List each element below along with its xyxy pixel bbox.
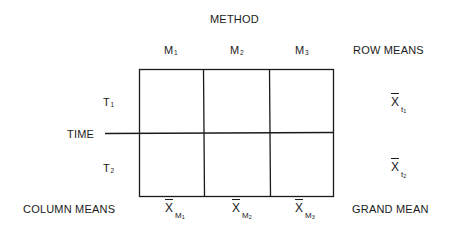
column-mean-m1-subscript-letter: M — [175, 211, 182, 220]
row-mean-t2: Xt2 — [391, 161, 406, 173]
column-mean-m3-symbol: X — [295, 202, 303, 214]
row-mean-t1-subscript: t1 — [401, 105, 406, 114]
column-mean-m3-subscript-index: 3 — [312, 214, 315, 220]
row-mean-t2-symbol: X — [391, 161, 399, 173]
row-mean-t1-subscript-index: 1 — [403, 108, 406, 114]
column-mean-m3-subscript: M3 — [305, 211, 315, 220]
column-means-label: COLUMN MEANS — [23, 204, 115, 215]
column-mean-m2: XM2 — [232, 202, 252, 214]
column-mean-m3-subscript-letter: M — [305, 211, 312, 220]
row-mean-t1: Xt1 — [391, 96, 406, 108]
column-mean-m1-subscript: M1 — [175, 211, 185, 220]
column-mean-m2-symbol: X — [232, 202, 240, 214]
grand-mean-label: GRAND MEAN — [352, 204, 429, 215]
row-mean-t1-symbol: X — [391, 96, 399, 108]
column-mean-m2-subscript-index: 2 — [249, 214, 252, 220]
column-mean-m1: XM1 — [165, 202, 185, 214]
column-mean-m1-subscript-index: 1 — [182, 214, 185, 220]
column-mean-m1-symbol: X — [165, 202, 173, 214]
row-mean-t2-subscript: t2 — [401, 170, 406, 179]
row-mean-t2-subscript-index: 2 — [403, 173, 406, 179]
column-mean-m2-subscript: M2 — [242, 211, 252, 220]
two-by-three-grid — [0, 0, 460, 232]
column-mean-m3: XM3 — [295, 202, 315, 214]
column-mean-m2-subscript-letter: M — [242, 211, 249, 220]
